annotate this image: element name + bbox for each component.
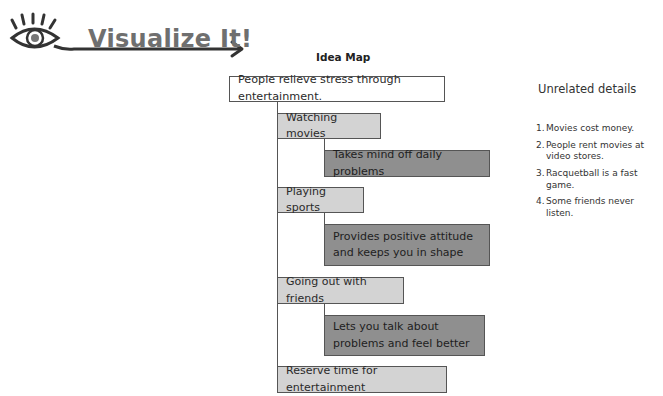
detail-text: Lets you talk about problems and feel be… [333,319,476,352]
list-item: 1.Movies cost money. [536,123,656,135]
main-connector-line [277,102,278,380]
unrelated-details-list: 1.Movies cost money. 2.People rent movie… [536,123,656,225]
root-idea-text: People relieve stress through entertainm… [238,72,436,106]
branch-box-going-out: Going out with friends [277,277,404,304]
root-idea-box: People relieve stress through entertainm… [229,76,445,102]
detail-text: Takes mind off daily problems [333,147,481,180]
visualize-it-logo: Visualize It! [4,12,274,62]
branch-label: Going out with friends [286,274,395,307]
list-item: 3.Racquetball is a fast game. [536,168,656,191]
detail-box-movies: Takes mind off daily problems [324,150,490,177]
unrelated-details-title: Unrelated details [538,82,636,96]
detail-box-friends: Lets you talk about problems and feel be… [324,315,485,356]
branch-label: Watching movies [286,110,372,143]
detail-text: Provides positive attitude and keeps you… [333,229,481,262]
branch-box-playing-sports: Playing sports [277,187,364,213]
list-item: 2.People rent movies at video stores. [536,140,656,163]
branch-label: Playing sports [286,184,355,217]
conclusion-text: Reserve time for entertainment [286,363,438,396]
conclusion-box: Reserve time for entertainment [277,366,447,393]
detail-box-sports: Provides positive attitude and keeps you… [324,224,490,266]
list-item: 4.Some friends never listen. [536,196,656,219]
logo-text: Visualize It! [88,25,252,53]
branch-box-watching-movies: Watching movies [277,113,381,139]
diagram-title: Idea Map [316,51,370,63]
